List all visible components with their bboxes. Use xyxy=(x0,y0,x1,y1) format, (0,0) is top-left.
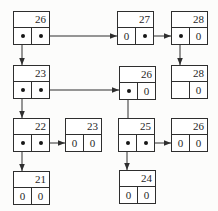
node-key: 25 xyxy=(119,119,154,135)
left-pointer-cell: 0 xyxy=(172,135,190,151)
pointer-dot-icon xyxy=(39,34,43,38)
right-pointer-cell: 0 xyxy=(190,135,207,151)
pointer-row xyxy=(14,28,49,44)
pointer-dot-icon xyxy=(126,141,130,145)
pointer-dot-icon xyxy=(144,141,148,145)
node-key: 22 xyxy=(14,119,49,135)
arrowhead-icon xyxy=(19,111,25,118)
node-22: 22 xyxy=(13,118,50,152)
arrowhead-icon xyxy=(112,87,119,93)
arrow-26-root-right-to-27 xyxy=(41,33,117,39)
node-28-child: 280 xyxy=(171,65,208,99)
left-pointer-cell: 0 xyxy=(66,135,84,151)
linked-structure-diagram: 262702802326028022230025260021002400 xyxy=(0,0,218,211)
pointer-dot-icon xyxy=(39,141,43,145)
arrowhead-icon xyxy=(177,58,183,65)
node-key: 23 xyxy=(14,66,49,82)
node-key: 28 xyxy=(172,66,207,82)
node-key: 26 xyxy=(14,12,49,28)
arrowhead-icon xyxy=(124,163,130,170)
left-pointer-cell xyxy=(120,83,138,99)
left-pointer-cell xyxy=(14,28,32,44)
left-pointer-cell xyxy=(172,82,190,98)
pointer-dot-icon xyxy=(21,88,25,92)
right-pointer-cell xyxy=(32,135,49,151)
arrow-23-mid-right-to-26 xyxy=(41,87,119,93)
pointer-row xyxy=(14,82,49,98)
arrowhead-icon xyxy=(164,140,171,146)
pointer-row: 00 xyxy=(14,188,49,204)
node-23-mid: 23 xyxy=(13,65,50,99)
pointer-row xyxy=(14,135,49,151)
left-pointer-cell xyxy=(172,28,190,44)
pointer-row: 00 xyxy=(66,135,101,151)
node-key: 27 xyxy=(118,12,153,28)
right-pointer-cell: 0 xyxy=(190,28,207,44)
pointer-dot-icon xyxy=(143,34,147,38)
node-27-root: 270 xyxy=(117,11,154,45)
pointer-dot-icon xyxy=(21,34,25,38)
node-28-root: 280 xyxy=(171,11,208,45)
right-pointer-cell: 0 xyxy=(138,83,155,99)
pointer-row: 0 xyxy=(118,28,153,44)
right-pointer-cell: 0 xyxy=(84,135,101,151)
right-pointer-cell: 0 xyxy=(32,188,49,204)
node-key: 24 xyxy=(120,171,155,187)
node-key: 21 xyxy=(14,172,49,188)
arrowhead-icon xyxy=(164,33,171,39)
arrowhead-icon xyxy=(19,58,25,65)
right-pointer-cell xyxy=(32,82,49,98)
arrowhead-icon xyxy=(58,140,65,146)
pointer-dot-icon xyxy=(39,88,43,92)
pointer-row: 00 xyxy=(120,187,155,203)
left-pointer-cell: 0 xyxy=(118,28,136,44)
node-26-mid: 260 xyxy=(119,66,156,100)
right-pointer-cell: 0 xyxy=(138,187,155,203)
left-pointer-cell: 0 xyxy=(120,187,138,203)
left-pointer-cell xyxy=(119,135,137,151)
left-pointer-cell xyxy=(14,82,32,98)
node-26-root: 26 xyxy=(13,11,50,45)
arrowhead-icon xyxy=(110,33,117,39)
pointer-row: 0 xyxy=(120,83,155,99)
node-key: 26 xyxy=(120,67,155,83)
pointer-row: 0 xyxy=(172,82,207,98)
pointer-row: 0 xyxy=(172,28,207,44)
node-23-leaf: 2300 xyxy=(65,118,102,152)
left-pointer-cell: 0 xyxy=(14,188,32,204)
pointer-dot-icon xyxy=(179,34,183,38)
node-26-leaf: 2600 xyxy=(171,118,208,152)
arrowhead-icon xyxy=(19,164,25,171)
pointer-dot-icon xyxy=(127,89,131,93)
right-pointer-cell: 0 xyxy=(190,82,207,98)
node-25: 25 xyxy=(118,118,155,152)
node-24: 2400 xyxy=(119,170,156,204)
node-key: 23 xyxy=(66,119,101,135)
right-pointer-cell xyxy=(32,28,49,44)
left-pointer-cell xyxy=(14,135,32,151)
pointer-dot-icon xyxy=(21,141,25,145)
right-pointer-cell xyxy=(136,28,153,44)
right-pointer-cell xyxy=(137,135,154,151)
pointer-row: 00 xyxy=(172,135,207,151)
node-key: 28 xyxy=(172,12,207,28)
node-key: 26 xyxy=(172,119,207,135)
pointer-row xyxy=(119,135,154,151)
node-21: 2100 xyxy=(13,171,50,205)
